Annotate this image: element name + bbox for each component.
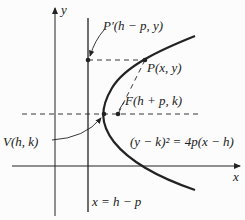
- vertex-pointer: [52, 118, 101, 140]
- focus-pointer: [119, 102, 124, 110]
- label-p-prime: P′(h − p, y): [102, 18, 163, 33]
- y-axis-label: y: [59, 2, 67, 17]
- label-equation: (y − k)² = 4p(x − h): [130, 134, 234, 149]
- point-vertex: [102, 112, 107, 117]
- p-prime-pointer: [90, 30, 104, 56]
- point-p-prime: [86, 58, 91, 63]
- label-focus: F(h + p, k): [124, 93, 182, 108]
- label-directrix: x = h − p: [91, 194, 142, 209]
- parabola-diagram: y x P′(h − p, y) P(x, y) F(h + p, k) V(h…: [0, 0, 245, 220]
- x-axis-label: x: [232, 169, 239, 184]
- label-vertex: V(h, k): [3, 134, 38, 149]
- point-focus: [116, 112, 121, 117]
- label-p: P(x, y): [146, 60, 182, 75]
